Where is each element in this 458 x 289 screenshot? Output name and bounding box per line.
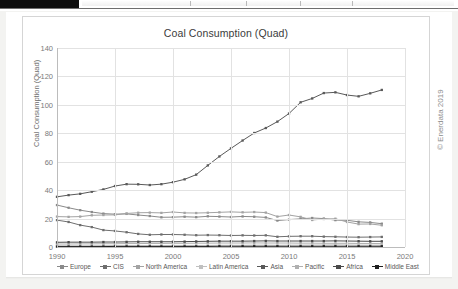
data-point-marker xyxy=(369,92,371,94)
data-point-marker xyxy=(311,97,313,99)
data-point-marker xyxy=(265,234,267,236)
data-point-marker xyxy=(137,212,139,214)
data-point-marker xyxy=(276,240,278,242)
x-gridline xyxy=(231,48,232,247)
x-gridline xyxy=(289,48,290,247)
data-point-marker xyxy=(334,242,336,244)
data-point-marker xyxy=(149,241,151,243)
data-point-marker xyxy=(323,92,325,94)
data-point-marker xyxy=(276,242,278,244)
data-point-marker xyxy=(334,236,336,238)
legend-label: Latin America xyxy=(209,263,248,270)
data-point-marker xyxy=(299,242,301,244)
legend-marker-icon xyxy=(295,265,299,269)
x-gridline xyxy=(405,48,406,247)
legend-label: Europe xyxy=(70,263,91,270)
legend-label: Middle East xyxy=(385,263,419,270)
data-point-marker xyxy=(195,174,197,176)
data-point-marker xyxy=(381,224,383,226)
x-gridline xyxy=(347,48,348,247)
data-point-marker xyxy=(67,194,69,196)
series-line-europe xyxy=(57,205,382,224)
data-point-marker xyxy=(265,127,267,129)
data-point-marker xyxy=(253,211,255,213)
data-point-marker xyxy=(357,242,359,244)
data-point-marker xyxy=(183,240,185,242)
legend-marker-icon xyxy=(261,265,265,269)
legend-item-europe[interactable]: Europe xyxy=(57,263,91,270)
data-point-marker xyxy=(276,236,278,238)
data-point-marker xyxy=(137,233,139,235)
legend-item-africa[interactable]: Africa xyxy=(333,263,363,270)
legend-swatch-icon xyxy=(100,266,111,267)
y-tick-label: 120 xyxy=(40,72,53,81)
document-page: Coal Consumption (Quad) Coal Consumption… xyxy=(6,12,452,277)
data-point-marker xyxy=(137,183,139,185)
data-point-marker xyxy=(218,240,220,242)
toolbar-tick xyxy=(246,1,247,6)
data-point-marker xyxy=(79,224,81,226)
x-tick-label: 2020 xyxy=(397,252,414,261)
legend-swatch-icon xyxy=(292,266,303,267)
plot-area: 0204060801001201401990199520002005201020… xyxy=(57,48,405,247)
data-point-marker xyxy=(323,240,325,242)
data-point-marker xyxy=(91,214,93,216)
data-point-marker xyxy=(276,120,278,122)
y-axis-line xyxy=(57,48,58,247)
legend-swatch-icon xyxy=(257,266,268,267)
data-point-marker xyxy=(207,234,209,236)
data-point-marker xyxy=(357,240,359,242)
chart-legend[interactable]: EuropeCISNorth AmericaLatin AmericaAsiaP… xyxy=(57,263,429,270)
legend-item-middle-east[interactable]: Middle East xyxy=(372,263,419,270)
y-tick-label: 60 xyxy=(45,157,53,166)
y-gridline xyxy=(57,247,405,248)
data-point-marker xyxy=(276,219,278,221)
data-point-marker xyxy=(183,212,185,214)
data-point-marker xyxy=(241,139,243,141)
data-point-marker xyxy=(160,183,162,185)
data-point-marker xyxy=(102,229,104,231)
legend-marker-icon xyxy=(60,265,64,269)
legend-item-north-america[interactable]: North America xyxy=(133,263,187,270)
x-gridline xyxy=(173,48,174,247)
toolbar-tick xyxy=(300,1,301,6)
data-point-marker xyxy=(137,241,139,243)
y-tick-label: 80 xyxy=(45,129,53,138)
data-point-marker xyxy=(67,241,69,243)
legend-item-asia[interactable]: Asia xyxy=(257,263,283,270)
data-point-marker xyxy=(195,234,197,236)
data-point-marker xyxy=(79,215,81,217)
top-cropped-strip xyxy=(0,0,458,11)
data-point-marker xyxy=(253,234,255,236)
data-point-marker xyxy=(79,241,81,243)
legend-label: Africa xyxy=(346,263,363,270)
y-tick-label: 0 xyxy=(49,243,53,252)
data-point-marker xyxy=(299,101,301,103)
header-divider xyxy=(0,8,458,9)
data-point-marker xyxy=(149,215,151,217)
data-point-marker xyxy=(265,242,267,244)
data-point-marker xyxy=(207,215,209,217)
data-point-marker xyxy=(149,211,151,213)
y-tick-label: 40 xyxy=(45,186,53,195)
legend-item-cis[interactable]: CIS xyxy=(100,263,124,270)
data-point-marker xyxy=(241,234,243,236)
data-point-marker xyxy=(265,240,267,242)
black-header-block xyxy=(0,0,79,8)
data-point-marker xyxy=(253,216,255,218)
x-tick-label: 1995 xyxy=(107,252,124,261)
legend-swatch-icon xyxy=(333,266,344,267)
data-point-marker xyxy=(334,240,336,242)
data-point-marker xyxy=(357,236,359,238)
legend-item-latin-america[interactable]: Latin America xyxy=(196,263,248,270)
data-point-marker xyxy=(323,242,325,244)
legend-item-pacific[interactable]: Pacific xyxy=(292,263,324,270)
data-point-marker xyxy=(149,234,151,236)
data-point-marker xyxy=(218,155,220,157)
toolbar-tick xyxy=(352,1,353,6)
data-point-marker xyxy=(357,95,359,97)
y-tick-label: 20 xyxy=(45,214,53,223)
x-tick-label: 2000 xyxy=(165,252,182,261)
data-point-marker xyxy=(102,214,104,216)
legend-swatch-icon xyxy=(133,266,144,267)
